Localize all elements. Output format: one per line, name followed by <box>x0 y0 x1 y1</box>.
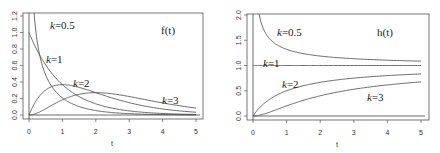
chart-title: h(t) <box>377 26 393 39</box>
x-tick-label: 5 <box>419 129 423 136</box>
label-k-1: k=1 <box>46 53 63 65</box>
y-axis: 0.00.20.40.60.81.01.2 <box>11 11 23 120</box>
x-tick-label: 5 <box>194 128 198 135</box>
y-tick-label: 1.2 <box>11 11 18 21</box>
x-tick-label: 3 <box>352 129 356 136</box>
label-k-0.5: k=0.5 <box>277 26 302 38</box>
x-axis-label: t <box>111 140 113 147</box>
y-tick-label: 1.0 <box>235 61 242 71</box>
label-k-3: k=3 <box>162 94 179 106</box>
hazard-plot: 0 1 2 3 4 5 t 0.00.51.01.52.0 k=0.5 k=1 … <box>235 0 429 148</box>
x-tick-label: 2 <box>318 129 322 136</box>
y-tick-label: 1.0 <box>11 28 18 38</box>
x-axis-label: t <box>336 141 338 148</box>
y-tick-label: 0.2 <box>11 94 18 104</box>
figure: 0 1 2 3 4 5 t 0.00.20.40.60.81.01.2 k=0.… <box>0 0 440 153</box>
x-tick-label: 1 <box>60 128 64 135</box>
x-axis: 0 1 2 3 4 5 t <box>27 119 198 147</box>
label-k-2: k=2 <box>73 77 90 89</box>
label-k-0.5: k=0.5 <box>50 19 75 31</box>
x-tick-label: 0 <box>27 128 31 135</box>
x-tick-label: 2 <box>94 128 98 135</box>
y-tick-label: 2.0 <box>235 10 242 20</box>
chart-title: f(t) <box>161 24 175 37</box>
y-tick-label: 0.0 <box>11 110 18 120</box>
y-tick-label: 0.5 <box>235 86 242 96</box>
y-tick-label: 0.0 <box>235 111 242 121</box>
label-k-3: k=3 <box>367 91 384 103</box>
x-tick-label: 0 <box>251 129 255 136</box>
label-k-2: k=2 <box>282 78 299 90</box>
y-tick-label: 0.8 <box>11 44 18 54</box>
x-tick-label: 4 <box>385 129 389 136</box>
x-tick-label: 1 <box>285 129 289 136</box>
x-axis: 0 1 2 3 4 5 t <box>251 120 423 148</box>
curve-k-2 <box>253 74 421 116</box>
x-tick-label: 3 <box>127 128 131 135</box>
y-axis: 0.00.51.01.52.0 <box>235 10 247 121</box>
curve-k-3 <box>253 82 421 116</box>
x-tick-label: 4 <box>161 128 165 135</box>
density-plot: 0 1 2 3 4 5 t 0.00.20.40.60.81.01.2 k=0.… <box>11 0 203 147</box>
label-k-1: k=1 <box>263 57 280 69</box>
y-tick-label: 0.6 <box>11 61 18 71</box>
y-tick-label: 0.4 <box>11 77 18 87</box>
y-tick-label: 1.5 <box>235 35 242 45</box>
